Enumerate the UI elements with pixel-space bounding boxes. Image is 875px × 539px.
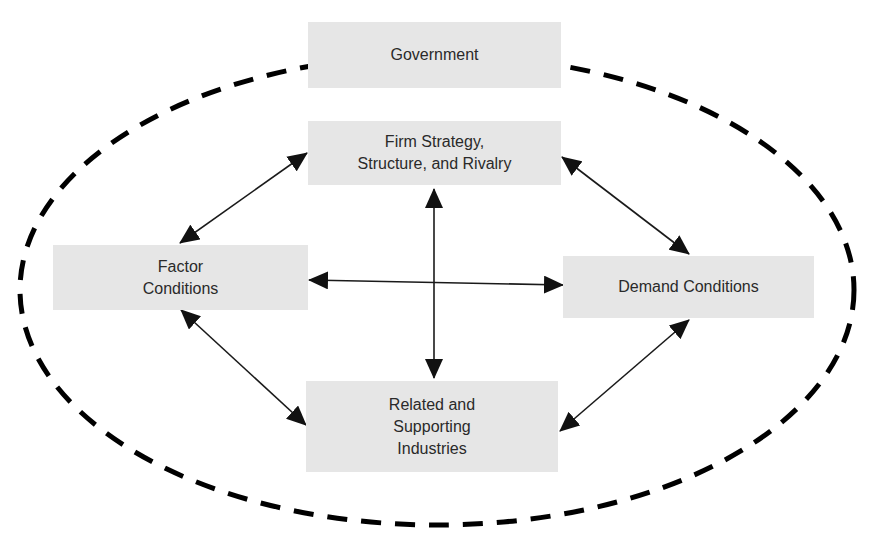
related-industries-node: Related and Supporting Industries: [306, 381, 558, 472]
porter-diamond-diagram: Government Firm Strategy, Structure, and…: [0, 0, 875, 539]
factor-conditions-node: Factor Conditions: [53, 245, 308, 310]
demand-conditions-label: Demand Conditions: [618, 276, 759, 298]
related-industries-label: Related and Supporting Industries: [389, 394, 475, 460]
firm-strategy-label: Firm Strategy, Structure, and Rivalry: [358, 131, 512, 175]
arrow-firm-demand: [562, 157, 689, 254]
firm-strategy-node: Firm Strategy, Structure, and Rivalry: [308, 121, 561, 185]
arrow-demand-related: [560, 320, 689, 431]
arrow-factor-demand: [309, 280, 563, 285]
arrow-factor-related: [181, 310, 306, 425]
arrow-firm-factor: [180, 153, 307, 243]
factor-conditions-label: Factor Conditions: [143, 256, 219, 300]
government-label: Government: [390, 44, 478, 66]
government-node: Government: [308, 22, 561, 88]
demand-conditions-node: Demand Conditions: [563, 256, 814, 318]
